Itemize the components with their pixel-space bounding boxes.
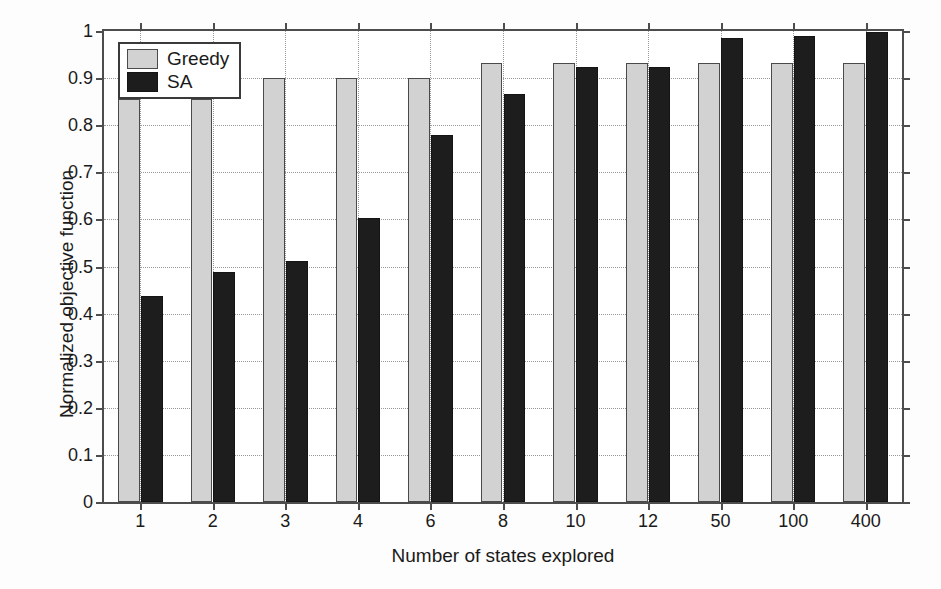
legend-label-sa: SA	[167, 72, 192, 92]
y-axis-tick-right	[902, 31, 910, 33]
x-axis-tick-label: 2	[208, 511, 218, 532]
y-axis-tick-label: 0.6	[68, 209, 93, 230]
x-axis-tick	[503, 502, 505, 510]
y-axis-tick-label: 0.5	[68, 256, 93, 277]
x-axis-tick-top	[358, 23, 360, 31]
y-axis-tick-label: 0.1	[68, 444, 93, 465]
x-axis-tick	[793, 502, 795, 510]
bar-greedy-12	[626, 63, 648, 502]
bar-chart-figure: Normalized objective function 00.10.20.3…	[0, 0, 941, 589]
y-axis-tick-right	[902, 455, 910, 457]
y-axis-tick-right	[902, 78, 910, 80]
legend-swatch-sa-icon	[127, 72, 158, 92]
y-axis-tick-label: 0.4	[68, 303, 93, 324]
y-axis-tick-label: 0.9	[68, 68, 93, 89]
x-axis-tick-top	[285, 23, 287, 31]
y-axis-tick-label: 1	[83, 21, 93, 42]
x-axis-tick-top	[430, 23, 432, 31]
x-axis-tick-label: 3	[280, 511, 290, 532]
x-axis-tick-top	[866, 23, 868, 31]
y-axis-tick	[96, 408, 104, 410]
bar-sa-1	[141, 296, 163, 502]
y-axis-tick-label: 0.7	[68, 162, 93, 183]
x-axis-tick-top	[503, 23, 505, 31]
x-axis-tick-top	[721, 23, 723, 31]
y-axis-tick-right	[902, 125, 910, 127]
bar-greedy-10	[553, 63, 575, 502]
x-axis-tick	[648, 502, 650, 510]
bar-sa-2	[213, 272, 235, 502]
legend-entry-greedy: Greedy	[127, 49, 229, 69]
x-axis-tick	[140, 502, 142, 510]
x-axis-title: Number of states explored	[102, 545, 904, 567]
x-axis-tick-top	[140, 23, 142, 31]
x-axis-tick	[721, 502, 723, 510]
bar-sa-3	[286, 261, 308, 502]
bar-greedy-100	[771, 63, 793, 502]
bar-greedy-3	[263, 78, 285, 502]
y-axis-tick-label: 0.3	[68, 350, 93, 371]
x-axis-tick-label: 10	[566, 511, 586, 532]
bar-sa-100	[794, 36, 816, 502]
y-axis-tick-right	[902, 408, 910, 410]
y-axis-tick	[96, 125, 104, 127]
x-axis-tick-label: 4	[353, 511, 363, 532]
x-axis-tick-top	[793, 23, 795, 31]
y-axis-tick	[96, 267, 104, 269]
y-axis-tick-right	[902, 361, 910, 363]
bar-sa-4	[358, 218, 380, 502]
y-axis-tick	[96, 314, 104, 316]
y-axis-tick-right	[902, 219, 910, 221]
y-axis-tick-label: 0.2	[68, 397, 93, 418]
x-axis-tick-label: 8	[498, 511, 508, 532]
plot-area: 00.10.20.30.40.50.60.70.80.9112346810125…	[102, 29, 904, 504]
x-axis-tick	[430, 502, 432, 510]
bar-greedy-400	[843, 63, 865, 502]
plot-inner: 00.10.20.30.40.50.60.70.80.9112346810125…	[104, 31, 902, 502]
x-axis-tick	[285, 502, 287, 510]
y-axis-tick-label: 0	[83, 492, 93, 513]
bar-sa-6	[431, 135, 453, 502]
y-axis-tick-right	[902, 172, 910, 174]
x-axis-tick-label: 100	[778, 511, 808, 532]
x-axis-tick	[358, 502, 360, 510]
x-axis-tick-label: 400	[851, 511, 881, 532]
x-axis-tick-label: 12	[638, 511, 658, 532]
y-axis-tick-label: 0.8	[68, 115, 93, 136]
y-axis-tick	[96, 361, 104, 363]
bar-sa-8	[504, 94, 526, 502]
x-axis-tick	[213, 502, 215, 510]
x-axis-tick-top	[213, 23, 215, 31]
bar-greedy-1	[118, 99, 140, 502]
y-axis-tick-right	[902, 314, 910, 316]
x-axis-tick	[576, 502, 578, 510]
chart-legend: Greedy SA	[118, 42, 241, 99]
y-axis-tick	[96, 219, 104, 221]
legend-label-greedy: Greedy	[167, 49, 229, 69]
bar-greedy-8	[481, 63, 503, 502]
y-axis-tick	[96, 31, 104, 33]
x-axis-tick-top	[576, 23, 578, 31]
x-axis-tick	[866, 502, 868, 510]
x-axis-tick-top	[648, 23, 650, 31]
bar-greedy-4	[336, 78, 358, 502]
bar-sa-50	[721, 38, 743, 502]
bar-sa-400	[866, 32, 888, 502]
bar-sa-12	[649, 67, 671, 502]
legend-swatch-greedy-icon	[127, 49, 158, 69]
bar-greedy-6	[408, 78, 430, 502]
legend-entry-sa: SA	[127, 72, 229, 92]
y-axis-tick	[96, 172, 104, 174]
y-axis-tick-right	[902, 267, 910, 269]
bar-greedy-2	[191, 99, 213, 502]
x-axis-tick-label: 50	[711, 511, 731, 532]
bar-greedy-50	[698, 63, 720, 502]
bar-sa-10	[576, 67, 598, 502]
y-axis-tick	[96, 502, 104, 504]
x-axis-tick-label: 6	[425, 511, 435, 532]
y-axis-tick	[96, 78, 104, 80]
x-axis-tick-label: 1	[135, 511, 145, 532]
y-axis-tick-right	[902, 502, 910, 504]
y-axis-tick	[96, 455, 104, 457]
